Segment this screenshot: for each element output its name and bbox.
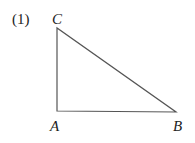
triangle-diagram: (1) C A B	[0, 0, 195, 143]
vertex-c-label: C	[52, 11, 63, 27]
vertex-a-label: A	[49, 118, 60, 134]
figure-number: (1)	[12, 11, 30, 28]
triangle-abc	[57, 28, 176, 112]
vertex-b-label: B	[173, 118, 182, 134]
